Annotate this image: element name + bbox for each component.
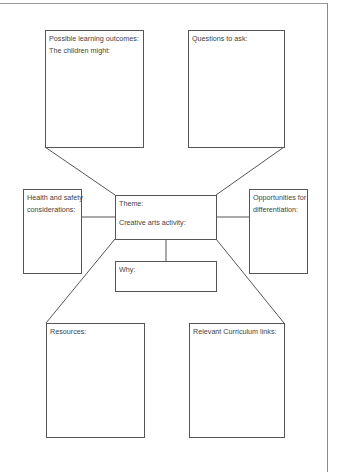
central-theme-box[interactable]: Theme: Creative arts activity: bbox=[115, 195, 217, 240]
curriculum-links-label: Relevant Curriculum links: bbox=[193, 326, 281, 338]
children-might-label: The children might: bbox=[49, 45, 140, 57]
opportunities-box[interactable]: Opportunities for differentiation: bbox=[249, 189, 308, 274]
learning-outcomes-label: Possible learning outcomes: bbox=[49, 33, 140, 45]
connector-questions-to-central bbox=[216, 147, 284, 195]
why-box[interactable]: Why: bbox=[115, 261, 217, 292]
health-safety-label-line1: Health and safety bbox=[27, 192, 78, 204]
health-safety-box[interactable]: Health and safety considerations: bbox=[23, 189, 82, 274]
resources-label: Resources: bbox=[50, 326, 141, 338]
questions-label: Questions to ask: bbox=[192, 33, 281, 45]
learning-outcomes-box[interactable]: Possible learning outcomes: The children… bbox=[45, 30, 144, 148]
curriculum-links-box[interactable]: Relevant Curriculum links: bbox=[189, 323, 285, 438]
spacer bbox=[119, 210, 213, 217]
opportunities-label-line2: differentiation: bbox=[253, 204, 304, 216]
why-label: Why: bbox=[119, 264, 213, 276]
theme-label: Theme: bbox=[119, 198, 213, 210]
health-safety-label-line2: considerations: bbox=[27, 204, 78, 216]
opportunities-label-line1: Opportunities for bbox=[253, 192, 304, 204]
resources-box[interactable]: Resources: bbox=[46, 323, 145, 438]
connector-learning-to-central bbox=[45, 147, 115, 195]
questions-box[interactable]: Questions to ask: bbox=[188, 30, 285, 148]
creative-arts-activity-label: Creative arts activity: bbox=[119, 217, 213, 229]
